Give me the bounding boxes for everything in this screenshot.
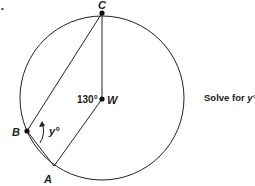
solve-prompt: Solve for y° xyxy=(204,92,255,103)
prompt-variable: y° xyxy=(247,92,255,103)
angle-130-label: 130° xyxy=(77,94,98,105)
arrow-head-icon xyxy=(39,121,45,127)
point-b xyxy=(24,128,29,133)
angle-y-label: y° xyxy=(48,125,60,137)
label-w: W xyxy=(107,94,119,106)
bullet: • xyxy=(1,4,4,13)
radius-wa xyxy=(54,99,102,166)
chord-cb xyxy=(27,13,102,131)
label-b: B xyxy=(12,126,20,138)
label-c: C xyxy=(98,0,107,11)
label-a: A xyxy=(43,173,52,185)
point-w xyxy=(99,96,104,101)
prompt-text: Solve for xyxy=(204,92,247,103)
point-c xyxy=(99,10,104,15)
